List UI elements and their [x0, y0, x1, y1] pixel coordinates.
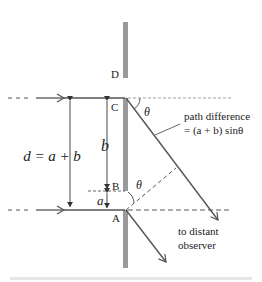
label-d-equation: d = a + b [23, 148, 81, 164]
label-observer: observer [178, 239, 216, 251]
label-point-C: C [111, 101, 118, 113]
lower-barrier [123, 210, 128, 268]
label-to-distant: to distant [178, 225, 219, 237]
upper-barrier [123, 22, 128, 78]
diffraction-diagram: D C B A θ θ b a d = a + b path differenc… [0, 0, 262, 282]
label-point-A: A [112, 212, 120, 224]
label-b: b [101, 137, 109, 154]
label-path-difference-formula: = (a + b) sinθ [184, 124, 243, 137]
diffracted-ray-from-A [126, 210, 166, 262]
label-path-difference: path difference [184, 110, 250, 122]
label-theta-top: θ [144, 105, 150, 119]
label-point-D: D [111, 68, 119, 80]
theta-arc-top [134, 98, 140, 109]
label-point-B: B [112, 180, 119, 192]
middle-barrier [123, 98, 128, 191]
path-difference-leader [155, 124, 180, 135]
label-a: a [97, 193, 104, 208]
faded-caption [10, 277, 252, 280]
label-theta-mid: θ [136, 178, 142, 192]
perpendicular-dash [126, 168, 176, 210]
theta-arc-mid [128, 192, 134, 203]
